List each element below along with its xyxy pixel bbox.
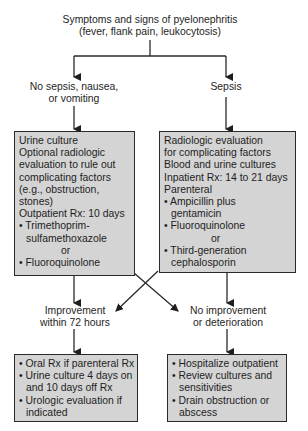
left-box-line: complicating factors xyxy=(19,172,130,184)
inpatient-treatment-box: Radiologic evaluation for complicating f… xyxy=(159,131,296,273)
bullet-oral-rx: • Oral Rx if parenteral Rx xyxy=(19,358,133,370)
or-label: or xyxy=(164,233,291,245)
outcome-improvement-line1: Improvement xyxy=(30,305,120,317)
outcome-no-improvement: No improvement or deterioration xyxy=(180,305,276,329)
bullet-review-cultures: • Review cultures and xyxy=(172,370,282,382)
branch-no-sepsis: No sepsis, nausea, or vomiting xyxy=(14,81,134,105)
branch-no-sepsis-line1: No sepsis, nausea, xyxy=(14,81,134,93)
bullet-drain: • Drain obstruction or xyxy=(172,395,282,407)
bullet-ampicillin: • Ampicillin plus xyxy=(164,196,291,208)
right-box-line: Parenteral xyxy=(164,184,291,196)
bullet-fluoroquinolone: • Fluoroquinolone xyxy=(19,257,130,269)
bullet-fluoroquinolone: • Fluoroquinolone xyxy=(164,220,291,232)
bullet-urologic-eval-cont: indicated xyxy=(19,407,133,419)
bullet-cephalosporin: • Third-generation xyxy=(164,245,291,257)
left-box-line: (e.g., obstruction, xyxy=(19,184,130,196)
bullet-hospitalize: • Hospitalize outpatient xyxy=(172,358,282,370)
bullet-cephalosporin-cont: cephalosporin xyxy=(164,257,291,269)
right-box-line: Blood and urine cultures xyxy=(164,159,291,171)
outcome-no-improvement-line1: No improvement xyxy=(180,305,276,317)
or-label: or xyxy=(19,245,130,257)
bullet-review-cultures-cont: sensitivities xyxy=(172,382,282,394)
bullet-drain-cont: abscess xyxy=(172,407,282,419)
left-box-line: Optional radiologic xyxy=(19,147,130,159)
bullet-urine-culture-cont: and 10 days off Rx xyxy=(19,382,133,394)
right-box-line: for complicating factors xyxy=(164,147,291,159)
left-box-line: stones) xyxy=(19,196,130,208)
start-node: Symptoms and signs of pyelonephritis (fe… xyxy=(50,14,250,38)
left-box-line: Outpatient Rx: 10 days xyxy=(19,208,130,220)
left-box-line: Urine culture xyxy=(19,135,130,147)
improvement-actions-box: • Oral Rx if parenteral Rx • Urine cultu… xyxy=(14,354,138,422)
right-box-line: Inpatient Rx: 14 to 21 days xyxy=(164,172,291,184)
outcome-improvement-line2: within 72 hours xyxy=(30,317,120,329)
bullet-ampicillin-cont: gentamicin xyxy=(164,208,291,220)
outpatient-treatment-box: Urine culture Optional radiologic evalua… xyxy=(14,131,135,276)
branch-sepsis-label: Sepsis xyxy=(196,81,256,93)
start-node-line2: (fever, flank pain, leukocytosis) xyxy=(50,26,250,38)
start-node-line1: Symptoms and signs of pyelonephritis xyxy=(50,14,250,26)
right-box-line: Radiologic evaluation xyxy=(164,135,291,147)
outcome-no-improvement-line2: or deterioration xyxy=(180,317,276,329)
bullet-tmp-smx-cont: sulfamethoxazole xyxy=(19,233,130,245)
bullet-urologic-eval: • Urologic evaluation if xyxy=(19,395,133,407)
bullet-tmp-smx: • Trimethoprim- xyxy=(19,220,130,232)
branch-no-sepsis-line2: or vomiting xyxy=(14,93,134,105)
bullet-urine-culture: • Urine culture 4 days on xyxy=(19,370,133,382)
left-box-line: evaluation to rule out xyxy=(19,159,130,171)
outcome-improvement: Improvement within 72 hours xyxy=(30,305,120,329)
branch-sepsis: Sepsis xyxy=(196,81,256,93)
deterioration-actions-box: • Hospitalize outpatient • Review cultur… xyxy=(167,354,287,422)
